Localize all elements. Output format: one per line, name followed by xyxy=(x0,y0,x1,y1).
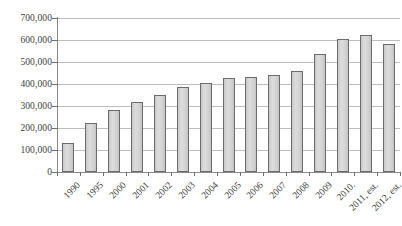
x-axis-tick-label: 2007 xyxy=(268,180,289,201)
x-axis-tick-label: 2009 xyxy=(314,180,335,201)
x-axis-tick-label: 2003 xyxy=(176,180,197,201)
x-axis-tick-label: 2006 xyxy=(245,180,266,201)
x-axis-tick-label: 1990 xyxy=(62,180,83,201)
y-axis-tick-mark xyxy=(52,150,58,151)
x-axis-tick-label: 2000 xyxy=(108,180,129,201)
y-axis-tick-mark xyxy=(52,18,58,19)
x-axis-tick-label: 2008 xyxy=(291,180,312,201)
x-axis-labels: 1990199520002001200220032004200520062007… xyxy=(0,0,402,226)
x-axis-tick-label: 1995 xyxy=(85,180,106,201)
y-axis-tick-mark xyxy=(52,172,58,173)
y-axis-tick-mark xyxy=(52,62,58,63)
y-axis-tick-mark xyxy=(52,128,58,129)
y-axis-tick-mark xyxy=(52,84,58,85)
bar-chart: 0100,000200,000300,000400,000500,000600,… xyxy=(0,0,402,226)
x-axis-tick-label: 2001 xyxy=(131,180,152,201)
x-axis-tick-label: 2005 xyxy=(222,180,243,201)
x-axis-tick-label: 2004 xyxy=(199,180,220,201)
y-axis-tick-mark xyxy=(52,40,58,41)
y-axis-tick-mark xyxy=(52,106,58,107)
x-axis-tick-label: 2002 xyxy=(153,180,174,201)
